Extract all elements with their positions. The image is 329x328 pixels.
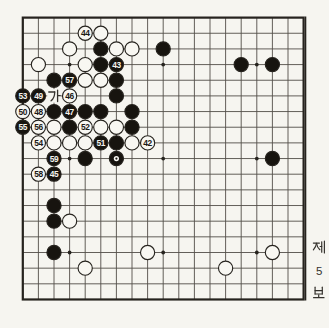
- stone-number: 49: [34, 91, 43, 101]
- stone-number: 44: [81, 28, 90, 38]
- stone-white: [78, 57, 92, 71]
- stone-black: [234, 57, 248, 71]
- stone-black-53: 53: [16, 89, 30, 103]
- stone-white-44: 44: [78, 26, 92, 40]
- stone-white: [125, 42, 139, 56]
- stone-number: 45: [50, 169, 59, 179]
- stone-black: [109, 136, 123, 150]
- stone-white: [78, 73, 92, 87]
- stone-black-45: 45: [47, 167, 61, 181]
- stone-number: 42: [143, 138, 152, 148]
- stone-number: 57: [65, 75, 74, 85]
- stone-white-54: 54: [31, 136, 45, 150]
- star-point: [68, 251, 72, 255]
- stone-white: [109, 120, 123, 134]
- stone-white: [63, 42, 77, 56]
- stone-black: [78, 151, 92, 165]
- stone-black: [47, 214, 61, 228]
- stone-number: 43: [112, 60, 121, 70]
- star-point: [161, 157, 165, 161]
- stone-black: [156, 42, 170, 56]
- go-book-diagram-page: 제5보 444357534946504847555652545142595845…: [0, 0, 329, 328]
- stone-white: [219, 261, 233, 275]
- star-point: [161, 251, 165, 255]
- stone-number: 50: [19, 107, 28, 117]
- stone-black: [47, 245, 61, 259]
- stone-number: 52: [81, 122, 90, 132]
- stone-black: [78, 104, 92, 118]
- stone-black: [265, 151, 279, 165]
- stone-number: 48: [34, 107, 43, 117]
- stone-white: [109, 42, 123, 56]
- point-label-가: 가: [47, 89, 61, 103]
- stone-number: 47: [65, 107, 74, 117]
- stone-white: [141, 245, 155, 259]
- stone-black-51: 51: [94, 136, 108, 150]
- stone-number: 51: [97, 138, 106, 148]
- stone-white-42: 42: [141, 136, 155, 150]
- stone-black: [47, 104, 61, 118]
- stone-white: [265, 245, 279, 259]
- stone-white: [47, 120, 61, 134]
- stone-black-49: 49: [31, 89, 45, 103]
- stone-black: [94, 57, 108, 71]
- stone-white: [94, 26, 108, 40]
- stone-black-55: 55: [16, 120, 30, 134]
- stone-black: [47, 198, 61, 212]
- stone-white-48: 48: [31, 104, 45, 118]
- stone-number: 58: [34, 169, 43, 179]
- stone-black-59: 59: [47, 151, 61, 165]
- stone-number: 46: [65, 91, 74, 101]
- stone-number: 59: [50, 154, 59, 164]
- stone-white: [63, 214, 77, 228]
- stone-black: [125, 104, 139, 118]
- stone-number: 54: [34, 138, 43, 148]
- stone-black: [94, 42, 108, 56]
- stone-number: 56: [34, 122, 43, 132]
- stone-white-58: 58: [31, 167, 45, 181]
- star-point: [161, 63, 165, 67]
- stone-white-56: 56: [31, 120, 45, 134]
- stone-black: [109, 89, 123, 103]
- stone-white-52: 52: [78, 120, 92, 134]
- stone-black-57: 57: [63, 73, 77, 87]
- stone-number: 53: [19, 91, 28, 101]
- star-point: [255, 63, 259, 67]
- stone-white: [78, 261, 92, 275]
- caption-char: 5: [316, 265, 322, 277]
- stone-white: [94, 73, 108, 87]
- stone-white: [63, 136, 77, 150]
- stone-white: [125, 136, 139, 150]
- stone-white: [94, 120, 108, 134]
- stone-white: [31, 57, 45, 71]
- stone-white: [47, 136, 61, 150]
- stone-white-50: 50: [16, 104, 30, 118]
- stone-black: [47, 73, 61, 87]
- stone-black: [94, 104, 108, 118]
- stone-black: [265, 57, 279, 71]
- stone-white: [78, 136, 92, 150]
- stone-black: [109, 151, 123, 165]
- star-point: [255, 157, 259, 161]
- stone-black: [125, 120, 139, 134]
- star-point: [255, 251, 259, 255]
- stone-black: [109, 73, 123, 87]
- stone-black-47: 47: [63, 104, 77, 118]
- stone-white-46: 46: [63, 89, 77, 103]
- star-point: [68, 63, 72, 67]
- stone-black: [63, 120, 77, 134]
- go-board: 444357534946504847555652545142595845가5: [0, 0, 329, 328]
- stone-black-43: 43: [109, 57, 123, 71]
- stone-number: 55: [19, 122, 28, 132]
- star-point: [68, 157, 72, 161]
